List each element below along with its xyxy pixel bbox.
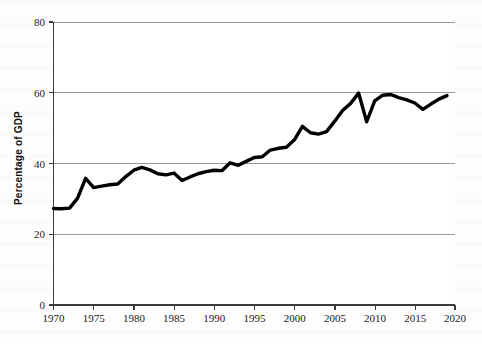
x-tick-label-2020: 2020 bbox=[444, 312, 467, 324]
y-tick-label-0: 0 bbox=[40, 299, 46, 311]
x-tick-label-2005: 2005 bbox=[324, 312, 347, 324]
y-tick-labels: 80 60 40 20 0 bbox=[34, 16, 46, 311]
x-tick-label-1985: 1985 bbox=[163, 312, 186, 324]
x-tick-label-1990: 1990 bbox=[203, 312, 226, 324]
x-tick-label-1995: 1995 bbox=[244, 312, 267, 324]
x-tick-label-2010: 2010 bbox=[364, 312, 387, 324]
y-tick-marks bbox=[49, 22, 53, 305]
y-axis-title: Percentage of GDP bbox=[13, 111, 24, 205]
y-tick-label-20: 20 bbox=[34, 228, 46, 240]
x-tick-label-1975: 1975 bbox=[83, 312, 106, 324]
chart-page: 80 60 40 20 0 1970 1975 1980 1985 1990 1… bbox=[0, 0, 482, 344]
x-tick-label-2000: 2000 bbox=[284, 312, 307, 324]
y-tick-label-80: 80 bbox=[34, 16, 46, 28]
x-tick-label-1970: 1970 bbox=[43, 312, 66, 324]
y-tick-label-60: 60 bbox=[34, 87, 46, 99]
x-tick-label-2015: 2015 bbox=[404, 312, 427, 324]
x-tick-labels: 1970 1975 1980 1985 1990 1995 2000 2005 … bbox=[43, 312, 467, 324]
y-tick-label-40: 40 bbox=[34, 158, 46, 170]
line-chart: 80 60 40 20 0 1970 1975 1980 1985 1990 1… bbox=[0, 0, 482, 344]
x-tick-label-1980: 1980 bbox=[123, 312, 146, 324]
